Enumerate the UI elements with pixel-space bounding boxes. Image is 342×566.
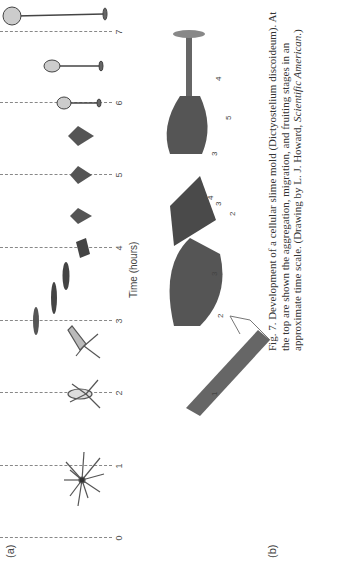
slug-icon — [33, 307, 39, 335]
slug-icon — [63, 262, 70, 290]
figure-canvas: (a) 0 1 2 3 4 5 6 7 Time (hours) — [0, 0, 342, 566]
migrating-slug-drawing — [170, 238, 223, 326]
part-label-2: 2 — [216, 314, 225, 318]
part-label-5: 5 — [224, 116, 233, 120]
standing-slug-icon — [68, 326, 100, 358]
part-label-3: 3 — [210, 272, 219, 276]
mound-icon — [76, 238, 90, 258]
part-label-4: 4 — [214, 77, 223, 81]
stage-drawings — [0, 0, 115, 566]
tick-label-2: 2 — [114, 390, 124, 395]
tick-label-5: 5 — [114, 172, 124, 177]
caption-suffix: .) — [291, 29, 303, 35]
part-label-3: 3 — [210, 152, 219, 156]
fruiting-body-icon — [44, 60, 103, 72]
aggregation-streams-icon — [64, 452, 104, 506]
cone-icon — [68, 126, 94, 146]
fruiting-body-forming-drawing — [167, 30, 208, 154]
tick-label-4: 4 — [114, 245, 124, 250]
cone-icon — [70, 208, 92, 224]
tick-label-7: 7 — [114, 29, 124, 34]
fruiting-body-icon — [3, 7, 107, 25]
part-label-2: 2 — [228, 212, 237, 216]
tick-label-0: 0 — [114, 535, 124, 540]
part-label-3: 3 — [214, 202, 223, 206]
cone-icon — [70, 166, 92, 184]
culminating-mound-drawing — [170, 176, 216, 246]
tick-label-1: 1 — [114, 463, 124, 468]
figure-caption: Fig. 7. Development of a cellular slime … — [266, 11, 304, 351]
panel-b-drawings — [130, 0, 270, 566]
caption-source: Scientific American — [291, 36, 303, 122]
slug-icon — [51, 282, 57, 314]
aggregate-with-tip-drawing — [186, 316, 270, 416]
aggregate-tip-icon — [68, 380, 100, 408]
tick-label-3: 3 — [114, 318, 124, 323]
fruiting-body-icon — [57, 97, 101, 109]
part-label-4: 4 — [206, 196, 215, 200]
tick-label-6: 6 — [114, 100, 124, 105]
part-label-1: 1 — [210, 392, 219, 396]
